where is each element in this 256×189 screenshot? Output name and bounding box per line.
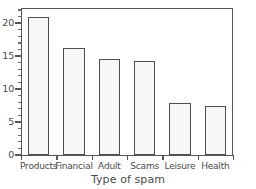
y-axis-tick-label: 0 bbox=[0, 150, 14, 160]
x-axis-tick bbox=[21, 155, 22, 160]
x-axis-tick bbox=[198, 155, 199, 160]
bar bbox=[134, 61, 155, 155]
x-axis-tick bbox=[92, 155, 93, 160]
x-axis-title: Type of spam bbox=[0, 173, 256, 186]
y-axis-tick-label: 15 bbox=[0, 51, 14, 61]
bar bbox=[28, 17, 49, 155]
bar-chart-figure: 05101520 ProductsFinancialAdultScamsLeis… bbox=[0, 0, 256, 189]
x-axis-tick bbox=[162, 155, 163, 160]
y-axis-tick-label: 20 bbox=[0, 18, 14, 28]
x-axis-tick bbox=[56, 155, 57, 160]
x-axis-tick bbox=[233, 155, 234, 160]
y-axis-tick-label: 10 bbox=[0, 84, 14, 94]
bar bbox=[63, 48, 84, 155]
y-axis-tick-label: 5 bbox=[0, 117, 14, 127]
bar bbox=[169, 103, 190, 155]
x-axis-category-label: Health bbox=[194, 161, 237, 172]
x-axis-tick bbox=[127, 155, 128, 160]
bar-series bbox=[21, 8, 233, 155]
x-axis-category-labels: ProductsFinancialAdultScamsLeisureHealth bbox=[21, 161, 233, 173]
bar bbox=[99, 59, 120, 155]
bar bbox=[205, 106, 226, 155]
